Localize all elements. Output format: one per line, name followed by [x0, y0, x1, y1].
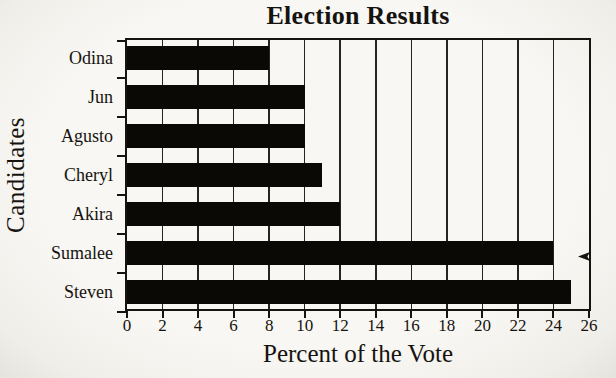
bar-jun: [127, 85, 305, 109]
gridline-14: [375, 40, 377, 309]
category-label-cheryl: Cheryl: [64, 164, 113, 185]
y-axis-category-labels: OdinaJunAgustoCherylAkiraSumaleeSteven: [0, 38, 119, 311]
election-results-bar-chart: Election Results Candidates OdinaJunAgus…: [0, 0, 616, 378]
x-axis-tick-label-22: 22: [509, 316, 526, 336]
x-axis-label: Percent of the Vote: [125, 340, 591, 368]
bar-cheryl: [127, 163, 322, 187]
gridline-18: [446, 40, 448, 309]
plot-area: [125, 38, 591, 311]
bar-odina: [127, 46, 269, 70]
x-axis-tick-label-12: 12: [332, 316, 349, 336]
bar-steven: [127, 280, 571, 304]
bar-sumalee: [127, 241, 553, 265]
x-axis-tick-label-24: 24: [545, 316, 562, 336]
x-axis-tick-label-8: 8: [265, 316, 274, 336]
x-axis-tick-label-0: 0: [123, 316, 132, 336]
category-label-jun: Jun: [88, 86, 113, 107]
category-label-agusto: Agusto: [61, 125, 113, 146]
category-label-sumalee: Sumalee: [51, 242, 113, 263]
gridline-16: [411, 40, 413, 309]
x-axis-tick-label-26: 26: [581, 316, 598, 336]
gridline-20: [482, 40, 484, 309]
gridline-22: [517, 40, 519, 309]
x-axis-tick-label-16: 16: [403, 316, 420, 336]
chart-title: Election Results: [125, 1, 591, 31]
bar-akira: [127, 202, 340, 226]
x-axis-tick-label-6: 6: [229, 316, 238, 336]
gridline-12: [339, 40, 341, 309]
bar-agusto: [127, 124, 305, 148]
x-axis-tick-label-20: 20: [474, 316, 491, 336]
gridline-24: [553, 40, 555, 309]
x-axis-tick-label-14: 14: [367, 316, 384, 336]
x-axis-tick-label-2: 2: [158, 316, 167, 336]
category-label-akira: Akira: [72, 203, 113, 224]
x-axis-tick-label-4: 4: [194, 316, 203, 336]
category-label-steven: Steven: [64, 281, 113, 302]
x-axis-tick-label-18: 18: [438, 316, 455, 336]
category-label-odina: Odina: [69, 47, 113, 68]
x-axis-tick-label-10: 10: [296, 316, 313, 336]
